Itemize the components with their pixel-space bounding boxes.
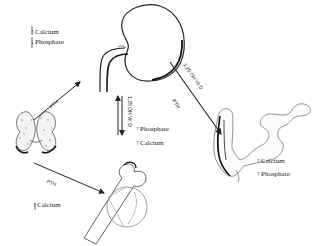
kidney-illustration (100, 5, 184, 92)
intestine-calcium-effect: ↑Calcium (256, 157, 285, 165)
kidney-calcium-effect: ↑Calcium (30, 28, 59, 36)
bone-calcium-effect: ↑Calcium (32, 201, 61, 209)
kidney-vitd-label: 1,25 OH Vit D (127, 96, 133, 127)
pth-to-bone-arrow (34, 163, 104, 193)
bone-illustration (84, 162, 147, 244)
diagram-canvas (0, 0, 319, 246)
vitd-to-intestine-arrow (170, 62, 221, 134)
kidney-phosphate-effect: ↓Phosphate (30, 38, 64, 46)
kidney-output-phosphate: ↑Phosphate (135, 125, 169, 133)
intestine-phosphate-effect: ↑Phosphate (256, 170, 290, 178)
kidney-output-calcium: ↑Calcium (135, 139, 164, 147)
